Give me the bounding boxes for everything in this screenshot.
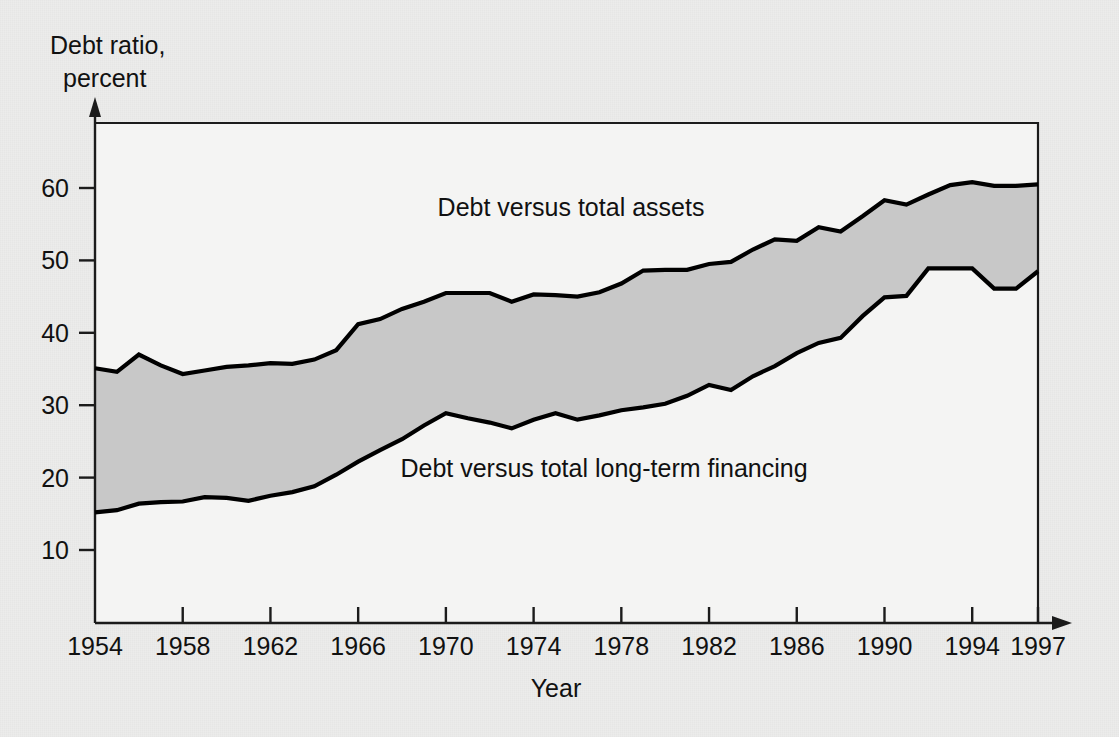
- x-tick-label: 1990: [857, 632, 913, 660]
- x-axis-arrow-icon: [1052, 616, 1072, 630]
- y-tick-label: 30: [41, 391, 69, 419]
- figure-page: 102030405060 195419581962196619701974197…: [0, 0, 1119, 737]
- y-axis-arrow-icon: [89, 97, 101, 117]
- x-tick-label: 1982: [681, 632, 737, 660]
- y-tick-label: 20: [41, 464, 69, 492]
- x-tick-label: 1966: [330, 632, 386, 660]
- x-axis-title: Year: [531, 674, 582, 702]
- x-tick-label: 1986: [769, 632, 825, 660]
- y-tick-label: 10: [41, 536, 69, 564]
- y-axis-title-line1: Debt ratio,: [50, 31, 165, 59]
- y-axis-title-line2: percent: [63, 64, 146, 92]
- annotation-debt-versus-total-assets: Debt versus total assets: [438, 193, 705, 221]
- y-tick-label: 60: [41, 174, 69, 202]
- x-tick-label: 1978: [594, 632, 650, 660]
- x-tick-label: 1954: [67, 632, 123, 660]
- x-tick-label: 1974: [506, 632, 562, 660]
- chart-canvas: 102030405060 195419581962196619701974197…: [0, 0, 1119, 737]
- annotation-debt-versus-total-long-term-financing: Debt versus total long-term financing: [400, 454, 807, 482]
- y-tick-label: 50: [41, 246, 69, 274]
- x-tick-label: 1962: [243, 632, 299, 660]
- x-tick-label: 1994: [944, 632, 1000, 660]
- y-axis-ticks: 102030405060: [41, 174, 95, 564]
- x-tick-label: 1970: [418, 632, 474, 660]
- x-tick-label: 1958: [155, 632, 211, 660]
- x-tick-label: 1997: [1010, 632, 1066, 660]
- y-tick-label: 40: [41, 319, 69, 347]
- debt-ratio-area-chart: 102030405060 195419581962196619701974197…: [0, 0, 1119, 737]
